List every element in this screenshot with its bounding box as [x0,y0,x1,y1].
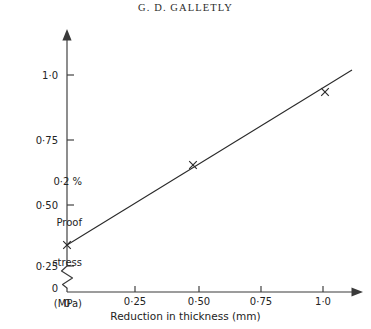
x-axis-arrow-icon [352,288,364,297]
y-tick-label-1-0: 1·0 [18,70,58,81]
data-point-markers [63,88,329,249]
x-tick-label-0-75: 0·75 [241,296,281,307]
y-tick-label-0-75: 0·75 [18,135,58,146]
x-tick-label-1-0: 1·0 [303,296,343,307]
y-axis-title-line-4: (MPa) [6,297,82,311]
y-axis-title-line-2: Proof [6,216,82,230]
x-tick-label-0-25: 0·25 [115,296,155,307]
x-axis-title: Reduction in thickness (mm) [0,310,371,322]
x-tick-label-0-50: 0·50 [179,296,219,307]
y-axis-arrow-icon [62,29,71,41]
data-point-marker [321,88,329,96]
y-axis-title-line-1: 0·2 % [6,175,82,189]
y-axis-title: 0·2 % Proof stress (MPa) [6,148,82,324]
y-axis-title-line-3: stress [6,256,82,270]
fitted-trend-line [67,70,352,245]
